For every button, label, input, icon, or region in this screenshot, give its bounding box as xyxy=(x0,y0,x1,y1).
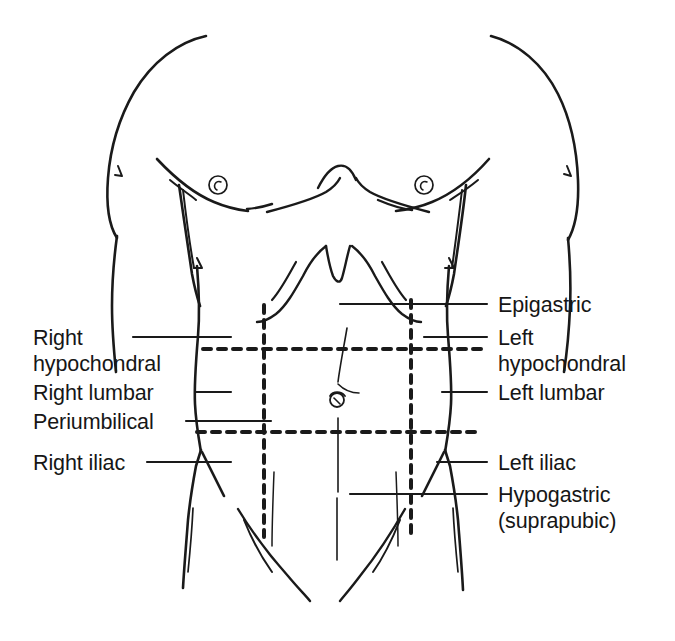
label-right-hypochondral-line2: hypochondral xyxy=(33,352,161,378)
label-right-hypochondral-line1: Right xyxy=(33,326,161,352)
clavicle-dash-left xyxy=(247,204,272,209)
xiphoid-process xyxy=(326,246,350,282)
sternal-notch-left xyxy=(267,178,340,212)
linea-alba-upper xyxy=(338,328,347,382)
right-thigh-outer xyxy=(238,509,310,601)
label-left-iliac: Left iliac xyxy=(498,451,576,477)
lower-flank-faint-left xyxy=(396,472,398,546)
label-right-iliac: Right iliac xyxy=(33,451,125,477)
left-thigh-inner xyxy=(373,520,400,572)
label-right-hypochondral: Righthypochondral xyxy=(33,326,161,377)
label-left-hypochondral-line1: Left xyxy=(498,326,626,352)
left-pectoral-fold xyxy=(396,159,489,211)
label-hypogastric: Hypogastric(suprapubic) xyxy=(498,483,616,534)
left-thigh-outer xyxy=(340,509,405,601)
label-right-lumbar: Right lumbar xyxy=(33,381,154,407)
label-periumbilical-line1: Periumbilical xyxy=(33,410,154,436)
nipple-right-icon xyxy=(209,176,227,194)
label-left-hypochondral-line2: hypochondral xyxy=(498,352,626,378)
left-inguinal-line xyxy=(422,452,444,496)
nipple-left-icon xyxy=(415,176,433,194)
rectus-fold-right xyxy=(338,384,359,393)
label-left-iliac-line1: Left iliac xyxy=(498,451,576,477)
label-left-hypochondral: Lefthypochondral xyxy=(498,326,626,377)
suprasternal-hump xyxy=(318,166,356,188)
label-epigastric-line1: Epigastric xyxy=(498,293,591,319)
right-inguinal-line xyxy=(202,452,224,496)
lower-flank-faint-right xyxy=(272,472,274,546)
anatomy-line-drawing xyxy=(0,0,675,641)
label-epigastric: Epigastric xyxy=(498,293,591,319)
label-hypogastric-line2: (suprapubic) xyxy=(498,509,616,535)
figure-canvas: RighthypochondralRight lumbarPeriumbilic… xyxy=(0,0,675,641)
right-thigh-inner xyxy=(244,520,272,572)
right-arm-shading-flick xyxy=(115,166,122,176)
right-pectoral-fold xyxy=(157,159,248,211)
costal-margin-left xyxy=(352,246,421,322)
label-right-iliac-line1: Right iliac xyxy=(33,451,125,477)
label-hypogastric-line1: Hypogastric xyxy=(498,483,616,509)
left-shoulder-outline xyxy=(491,36,578,240)
label-right-lumbar-line1: Right lumbar xyxy=(33,381,154,407)
left-arm-shading-flick xyxy=(564,166,571,176)
costal-margin-right xyxy=(257,246,326,322)
right-shoulder-outline xyxy=(107,36,206,238)
leader-lines xyxy=(133,304,487,494)
label-left-lumbar-line1: Left lumbar xyxy=(498,381,604,407)
label-periumbilical: Periumbilical xyxy=(33,410,154,436)
umbilicus-icon xyxy=(330,392,345,407)
label-left-lumbar: Left lumbar xyxy=(498,381,604,407)
